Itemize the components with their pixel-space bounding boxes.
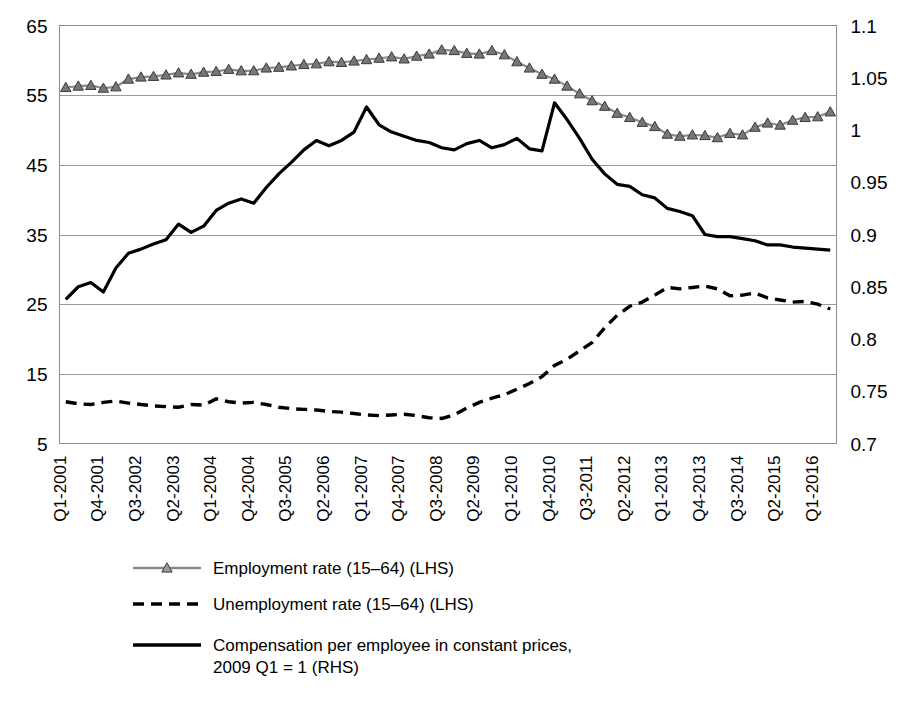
x-axis-tick-label: Q3-2008 [427, 456, 446, 522]
left-axis-tick-label: 45 [26, 155, 47, 176]
left-axis-tick-label: 35 [26, 225, 47, 246]
right-axis-tick-label: 1 [851, 120, 862, 141]
x-axis-tick-label: Q2-2015 [765, 456, 784, 522]
legend-label-line2: 2009 Q1 = 1 (RHS) [213, 658, 359, 677]
legend-label: Unemployment rate (15–64) (LHS) [213, 595, 474, 614]
right-axis-tick-label: 0.75 [851, 381, 888, 402]
right-axis-tick-label: 0.9 [851, 225, 877, 246]
right-axis-tick-label: 0.85 [851, 277, 888, 298]
x-axis-tick-label: Q2-2003 [164, 456, 183, 522]
x-axis-tick-label: Q2-2006 [314, 456, 333, 522]
chart-figure: 5152535455565 0.70.750.80.850.90.9511.05… [0, 0, 904, 703]
left-axis-tick-label: 5 [37, 434, 48, 455]
legend-label: Employment rate (15–64) (LHS) [213, 559, 454, 578]
x-axis-tick-label: Q4-2010 [540, 456, 559, 522]
x-axis-tick-label: Q4-2001 [88, 456, 107, 522]
x-axis-tick-label: Q4-2004 [239, 456, 258, 522]
right-axis-tick-label: 1.1 [851, 16, 877, 37]
right-axis-tick-label: 0.95 [851, 172, 888, 193]
x-axis-tick-label: Q2-2009 [464, 456, 483, 522]
left-axis-tick-label: 55 [26, 85, 47, 106]
x-axis-tick-label: Q4-2007 [389, 456, 408, 522]
right-axis-tick-label: 0.8 [851, 329, 877, 350]
x-axis-tick-label: Q1-2016 [803, 456, 822, 522]
left-axis-tick-label: 25 [26, 294, 47, 315]
x-axis-tick-label: Q3-2002 [126, 456, 145, 522]
x-axis-tick-label: Q1-2004 [201, 456, 220, 522]
x-axis-tick-label: Q1-2013 [652, 456, 671, 522]
x-axis-tick-labels: Q1-2001Q4-2001Q3-2002Q2-2003Q1-2004Q4-20… [51, 456, 822, 522]
left-axis-tick-label: 15 [26, 364, 47, 385]
x-axis-tick-label: Q1-2001 [51, 456, 70, 522]
x-axis-tick-label: Q3-2011 [577, 456, 596, 521]
x-axis-tick-label: Q2-2012 [615, 456, 634, 522]
right-axis-tick-label: 0.7 [851, 434, 877, 455]
x-axis-tick-label: Q1-2007 [352, 456, 371, 522]
left-axis-tick-label: 65 [26, 16, 47, 37]
x-axis-tick-label: Q3-2014 [728, 456, 747, 522]
x-axis-tick-label: Q3-2005 [276, 456, 295, 522]
x-axis-tick-label: Q4-2013 [690, 456, 709, 522]
x-axis-tick-label: Q1-2010 [502, 456, 521, 522]
legend-label: Compensation per employee in constant pr… [213, 636, 572, 655]
right-axis-tick-label: 1.05 [851, 68, 888, 89]
